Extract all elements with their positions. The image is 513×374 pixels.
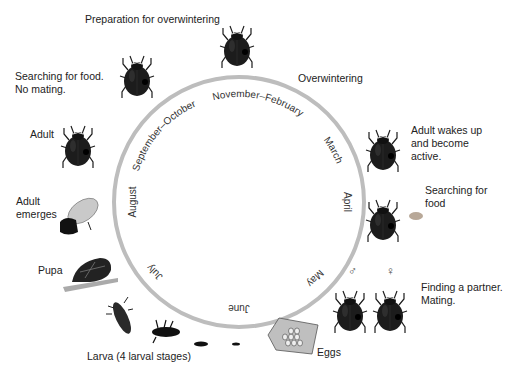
label-eggs: Eggs	[317, 346, 341, 359]
ring	[114, 77, 364, 327]
beetle-adult-icon	[61, 126, 95, 168]
female-symbol-icon: ♀	[386, 264, 395, 278]
month-april: April	[342, 192, 353, 212]
life-cycle-diagram: September–October November–February Marc…	[0, 0, 513, 374]
month-may: May	[305, 268, 326, 289]
label-wakes: Adult wakes up and become active.	[411, 124, 482, 163]
aphid-icon	[409, 212, 423, 220]
month-march: March	[322, 135, 345, 165]
larva-stage-2-icon	[194, 342, 208, 347]
label-finding-partner: Finding a partner. Mating.	[421, 281, 503, 307]
beetle-overwintering-icon	[220, 26, 254, 68]
male-symbol-icon: ♂	[348, 264, 357, 278]
beetle-male-icon	[333, 291, 367, 333]
larva-stage-1-icon	[232, 342, 240, 345]
month-nov-feb: November–February	[211, 88, 305, 119]
label-searching-food: Searching for food	[425, 184, 487, 210]
label-preparation: Preparation for overwintering	[85, 13, 220, 26]
month-sep-oct: September–October	[130, 98, 198, 173]
beetle-female-icon	[373, 291, 407, 333]
month-august: August	[127, 186, 138, 217]
beetle-searching-icon	[120, 56, 154, 98]
larva-stage-3-icon	[152, 320, 180, 343]
eggs-icon	[268, 318, 318, 354]
pupa-icon	[63, 258, 118, 292]
beetle-wakes-icon	[366, 130, 400, 172]
beetle-food-icon	[366, 200, 400, 242]
month-june: June	[228, 303, 250, 314]
emerging-adult-icon	[60, 193, 103, 234]
label-overwintering: Overwintering	[298, 72, 363, 85]
month-july: July	[144, 262, 164, 282]
larva-stage-4-icon	[106, 297, 135, 336]
label-searching-no-mating: Searching for food. No mating.	[15, 70, 104, 96]
label-adult: Adult	[30, 128, 54, 141]
label-adult-emerges: Adult emerges	[16, 195, 57, 221]
label-pupa: Pupa	[38, 264, 63, 277]
label-larva: Larva (4 larval stages)	[87, 350, 191, 363]
